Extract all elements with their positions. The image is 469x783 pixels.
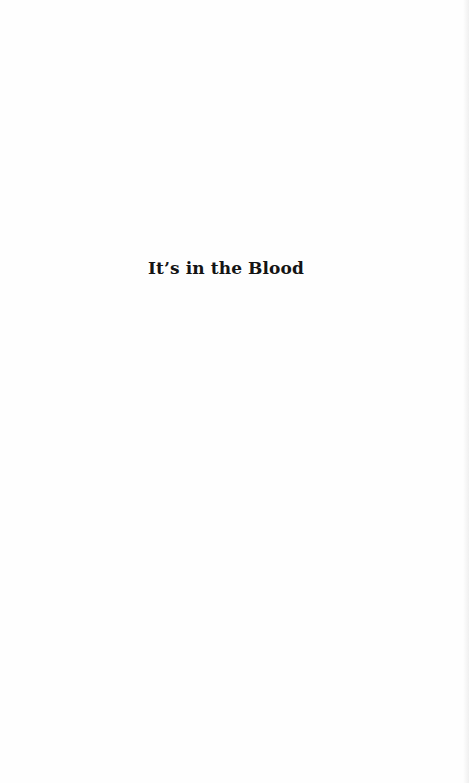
half-title: It’s in the Blood [148, 258, 304, 278]
page-edge-shadow [463, 0, 469, 783]
book-page: It’s in the Blood [0, 0, 469, 783]
